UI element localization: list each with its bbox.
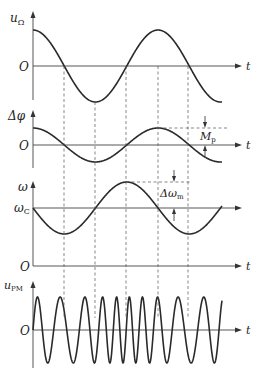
y-axis-label: uΩ [10, 11, 25, 27]
panel-angular-frequency: ω ωC O t Δωm [14, 170, 251, 274]
x-axis-label: t [246, 139, 251, 152]
x-axis-arrow-icon [235, 64, 242, 69]
origin-label: O [20, 324, 30, 338]
dwm-label: Δωm [159, 187, 184, 201]
panel-pm-signal: uPM O t [4, 279, 251, 368]
x-axis-arrow-icon [235, 143, 242, 148]
y-axis-arrow-icon [31, 181, 36, 188]
x-axis-arrow-icon [235, 264, 242, 269]
x-axis-label: t [246, 260, 251, 273]
origin-label: O [20, 260, 30, 274]
up-arrow-icon [172, 208, 176, 214]
y-axis-label: ω [18, 180, 28, 194]
y-axis-arrow-icon [31, 11, 36, 18]
carrier-line-arrow-icon [235, 206, 242, 211]
carrier-frequency-label: ωC [14, 201, 30, 216]
panel-modulating-signal: uΩ O t [10, 11, 251, 102]
x-axis-label: t [246, 324, 251, 337]
x-axis-arrow-icon [235, 328, 242, 333]
y-axis-arrow-icon [31, 281, 36, 288]
x-axis-label: t [246, 60, 251, 73]
down-arrow-icon [172, 176, 176, 182]
y-axis-label: uPM [4, 279, 23, 293]
origin-label: O [19, 139, 29, 153]
origin-label: O [19, 60, 29, 74]
y-axis-arrow-icon [31, 110, 36, 117]
pm-waveform-diagram: uΩ O t Δφ O t Mp ω ωC O t [0, 0, 258, 376]
panel-phase-deviation: Δφ O t Mp [7, 109, 251, 168]
up-arrow-icon [203, 145, 207, 151]
down-arrow-icon [203, 122, 207, 128]
mp-label: Mp [199, 130, 216, 144]
y-axis-label: Δφ [7, 109, 26, 123]
